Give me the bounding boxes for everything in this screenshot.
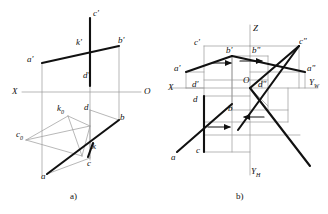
- label-yh-axis-b: YH: [251, 167, 260, 178]
- figure-root: X O a' b' c' k' d' d b c k a c0 k0 Z X Y…: [0, 0, 328, 214]
- panel-b-drawing: [0, 0, 328, 214]
- label-k-a: k: [92, 142, 96, 151]
- label-d-prime-b: d': [192, 80, 198, 89]
- label-z-axis-b: Z: [253, 24, 258, 33]
- label-b-prime-a: b': [118, 36, 124, 45]
- label-b-a: b: [120, 113, 125, 122]
- segment-o-lower-right: [250, 88, 310, 166]
- label-k-zero-sub: 0: [61, 109, 64, 115]
- label-a-h-b: a: [171, 153, 176, 162]
- label-c-zero-sub: 0: [20, 135, 23, 141]
- label-b-h-b: b: [228, 104, 233, 113]
- caption-b: b): [236, 191, 244, 201]
- label-a-double-prime-b: a": [307, 64, 315, 73]
- label-b-double-prime-b: b": [252, 46, 260, 55]
- label-d-double-prime-b: d": [258, 80, 266, 89]
- label-k-zero-a: k0: [57, 104, 64, 115]
- label-c-zero-a: c0: [16, 130, 23, 141]
- label-x-axis-a: X: [12, 87, 18, 96]
- label-yw-axis-b: YW: [309, 78, 319, 89]
- label-d-b: d: [193, 95, 198, 104]
- label-a-prime-b: a': [174, 64, 180, 73]
- label-x-axis-b: X: [168, 83, 174, 92]
- label-c-a: c: [87, 159, 91, 168]
- label-c-prime-b: c': [194, 38, 200, 47]
- label-a-prime-a: a': [27, 55, 33, 64]
- label-b-prime-b: b': [226, 46, 232, 55]
- label-origin-a: O: [144, 87, 151, 96]
- segment-ap-bp-b: [186, 56, 232, 72]
- label-c-h-b: c: [196, 146, 200, 155]
- label-k-prime-a: k': [76, 38, 82, 47]
- label-d-a: d: [84, 103, 89, 112]
- label-d-prime-a: d': [83, 71, 89, 80]
- label-yw-sub: W: [314, 83, 319, 89]
- label-origin-b: O: [243, 76, 250, 85]
- label-c-double-prime-b: c": [299, 37, 307, 46]
- label-c-prime-a: c': [93, 9, 99, 18]
- segment-bp-app: [232, 56, 305, 72]
- label-a-a: a: [41, 172, 46, 181]
- caption-a: a): [70, 191, 77, 201]
- label-yh-sub: H: [256, 172, 260, 178]
